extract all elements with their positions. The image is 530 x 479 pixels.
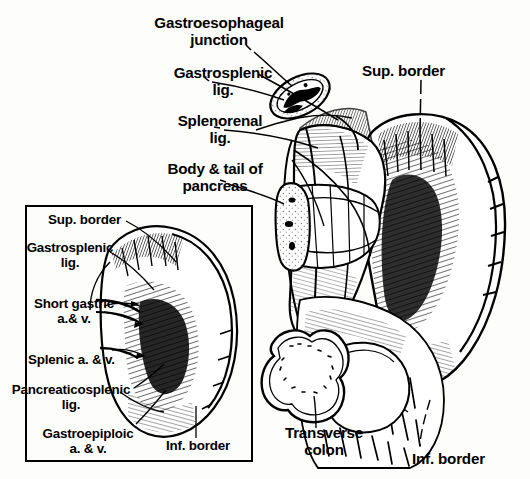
label-sup-border-main: Sup. border [362, 62, 445, 79]
label-gastroesophageal-junction: Gastroesophageal junction [134, 14, 304, 48]
inset-label-pancreaticosplenic-lig: Pancreaticosplenic lig. [10, 382, 132, 412]
inset-label-gastrosplenic-lig: Gastrosplenic lig. [22, 240, 118, 270]
pancreas-cut-surface [276, 183, 310, 270]
label-body-tail-pancreas: Body & tail of pancreas [128, 160, 302, 194]
label-gastrosplenic-lig: Gastrosplenic lig. [148, 64, 298, 98]
inset-label-gastroepiploic: Gastroepiploic a. & v. [38, 426, 138, 456]
label-inf-border-main: Inf. border [412, 450, 485, 467]
inset-label-short-gastric: Short gastric a.& v. [26, 296, 122, 326]
figure-canvas: Gastroesophageal junction Gastrosplenic … [0, 0, 530, 479]
inset-label-inf-border: Inf. border [166, 438, 230, 453]
label-transverse-colon: Transverse colon [266, 424, 382, 458]
inset-label-sup-border: Sup. border [48, 212, 121, 227]
inset-label-splenic-av: Splenic a. & v. [28, 352, 115, 367]
label-splenorenal-lig: Splenorenal lig. [142, 112, 298, 146]
